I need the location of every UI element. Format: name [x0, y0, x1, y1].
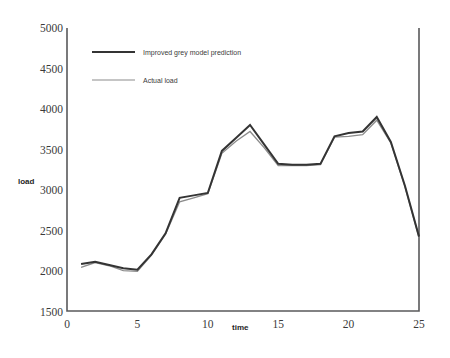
y-tick-label: 3000 — [40, 184, 63, 196]
x-axis-title: time — [232, 323, 249, 332]
load-forecast-chart: 5000 4500 4000 3500 3000 2500 2000 1500 … — [0, 0, 450, 358]
y-tick-label: 3500 — [40, 144, 63, 156]
y-tick-label: 4500 — [40, 63, 63, 75]
y-tick-label: 1500 — [40, 306, 63, 318]
x-tick-label: 0 — [64, 318, 70, 330]
x-tick-label: 25 — [413, 318, 425, 330]
x-tick-label: 10 — [202, 318, 214, 330]
x-tick-label: 5 — [135, 318, 141, 330]
y-axis-title: load — [18, 177, 35, 186]
y-tick-label: 2000 — [40, 265, 63, 277]
y-tick-label: 4000 — [40, 103, 63, 115]
y-tick-label: 2500 — [40, 225, 63, 237]
legend-label-prediction: Improved grey model prediction — [143, 49, 241, 57]
x-tick-label: 15 — [272, 318, 284, 330]
y-tick-label: 5000 — [40, 22, 63, 34]
x-tick-label: 20 — [343, 318, 355, 330]
legend-label-actual: Actual load — [143, 77, 178, 84]
